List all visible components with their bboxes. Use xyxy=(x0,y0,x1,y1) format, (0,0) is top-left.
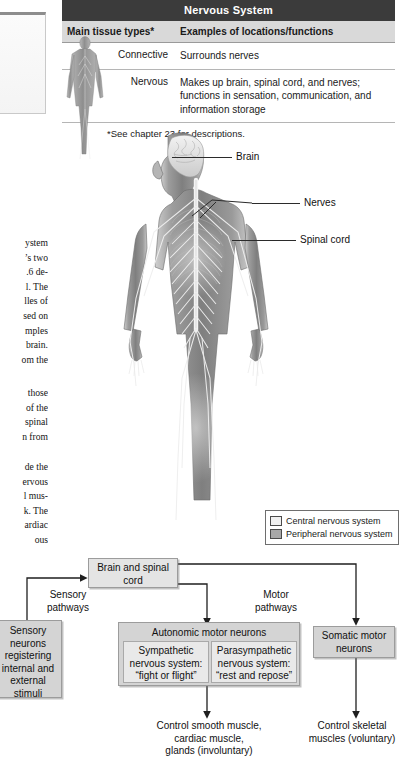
flow-label-sensory-pathways: Sensory pathways xyxy=(32,589,104,614)
nerve-pointer-lines xyxy=(190,190,260,220)
body-text-line: lles of xyxy=(0,294,48,309)
table-title: Nervous System xyxy=(62,0,395,21)
label-nerves: Nerves xyxy=(304,197,336,208)
body-text-line: ous xyxy=(0,533,48,548)
nervous-system-flowchart: Brain and spinal cord Sensory pathways M… xyxy=(0,552,404,755)
flow-label-control-autonomic: Control smooth muscle, cardiac muscle, g… xyxy=(130,720,288,758)
clipped-adjacent-figure xyxy=(0,12,46,114)
nervous-system-illustration xyxy=(96,128,346,533)
body-text-line: k. The xyxy=(0,504,48,519)
body-text-line: ervous xyxy=(0,475,48,490)
legend-item-cns: Central nervous system xyxy=(270,515,393,527)
legend-swatch-cns xyxy=(270,516,282,526)
body-text-line: spinal xyxy=(0,415,48,430)
column-header-examples: Examples of locations/functions xyxy=(174,26,395,37)
body-text-line: ystem xyxy=(0,236,48,251)
legend-swatch-pns xyxy=(270,529,282,539)
table-header-row: Main tissue types* Examples of locations… xyxy=(62,21,395,43)
table-row: Nervous Makes up brain, spinal cord, and… xyxy=(62,70,395,124)
flow-box-somatic-motor-neurons: Somatic motor neurons xyxy=(313,626,395,658)
leader-line-brain xyxy=(172,157,232,158)
table-row: Connective Surrounds nerves xyxy=(62,43,395,70)
body-text-line: ’s two xyxy=(0,251,48,266)
body-text-line: n from xyxy=(0,430,48,445)
label-spinal-cord: Spinal cord xyxy=(300,234,350,245)
legend-label-pns: Peripheral nervous system xyxy=(286,528,393,540)
body-text-column-a: ystem ’s two .6 de- l. The lles of sed o… xyxy=(0,236,48,367)
body-text-line: .6 de- xyxy=(0,265,48,280)
nervous-system-table: Nervous System Main tissue types* Exampl… xyxy=(62,0,395,139)
flow-box-brain-spinal-cord: Brain and spinal cord xyxy=(88,558,178,588)
body-text-line: of the xyxy=(0,401,48,416)
body-text-column-b: those of the spinal n from xyxy=(0,386,48,444)
flow-box-parasympathetic: Parasympathetic nervous system: “rest an… xyxy=(211,641,297,683)
body-text-line: om the xyxy=(0,353,48,368)
body-text-line: those xyxy=(0,386,48,401)
legend-item-pns: Peripheral nervous system xyxy=(270,528,393,540)
body-text-line: sed on xyxy=(0,309,48,324)
label-brain: Brain xyxy=(236,151,259,162)
cell-examples: Surrounds nerves xyxy=(174,43,395,69)
body-text-line: l. The xyxy=(0,280,48,295)
flow-box-sympathetic: Sympathetic nervous system: “fight or fl… xyxy=(123,641,209,683)
flow-box-sensory-neurons: Sensory neurons registering internal and… xyxy=(0,620,62,698)
body-text-line: de the xyxy=(0,460,48,475)
body-text-column-c: de the ervous l mus- k. The ardiac ous xyxy=(0,460,48,548)
flow-label-autonomic-title: Autonomic motor neurons xyxy=(119,627,299,640)
flow-label-motor-pathways: Motor pathways xyxy=(240,589,312,614)
figure-legend: Central nervous system Peripheral nervou… xyxy=(265,510,399,545)
legend-label-cns: Central nervous system xyxy=(286,515,381,527)
body-text-line: ardiac xyxy=(0,518,48,533)
body-text-line: mples xyxy=(0,324,48,339)
flow-label-control-somatic: Control skeletal muscles (voluntary) xyxy=(302,720,402,745)
leader-line-spinal-cord xyxy=(232,240,296,241)
flow-box-autonomic-motor-neurons: Autonomic motor neurons Sympathetic nerv… xyxy=(118,622,300,686)
body-text-line: l mus- xyxy=(0,489,48,504)
cell-examples: Makes up brain, spinal cord, and nerves;… xyxy=(174,70,395,123)
body-text-line: brain. xyxy=(0,338,48,353)
